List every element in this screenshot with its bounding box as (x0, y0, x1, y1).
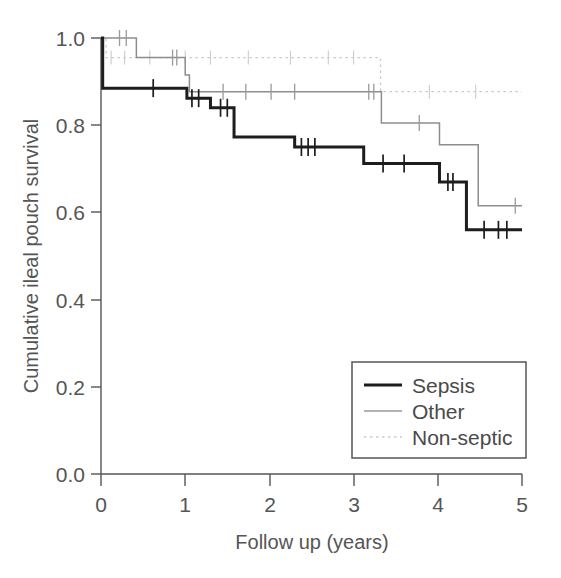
legend-label-other: Other (412, 400, 465, 423)
x-axis-label: Follow up (years) (235, 531, 388, 553)
x-tick-label: 4 (432, 493, 444, 516)
x-tick-label: 2 (264, 493, 276, 516)
legend: Sepsis Other Non-septic (352, 362, 526, 458)
x-tick-label: 0 (95, 493, 107, 516)
y-tick-label: 0.0 (56, 463, 85, 486)
x-tick-label: 5 (516, 493, 528, 516)
y-tick-label: 0.4 (56, 289, 86, 312)
legend-label-non-septic: Non-septic (412, 426, 512, 449)
y-tick-label: 1.0 (56, 27, 85, 50)
y-axis-label: Cumulative ileal pouch survival (20, 119, 42, 394)
y-tick-label: 0.8 (56, 114, 85, 137)
legend-label-sepsis: Sepsis (412, 374, 475, 397)
kaplan-meier-survival-chart: 1.0 0.8 0.6 0.4 0.2 0.0 0 1 2 3 4 5 Foll… (0, 0, 561, 578)
x-tick-label: 3 (348, 493, 360, 516)
x-tick-label: 1 (179, 493, 191, 516)
y-tick-label: 0.6 (56, 201, 85, 224)
y-tick-label: 0.2 (56, 376, 85, 399)
